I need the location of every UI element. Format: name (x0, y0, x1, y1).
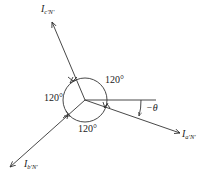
phasor-c-label: Ic'N' (41, 4, 54, 16)
angle-label-top-right: 120° (105, 75, 124, 85)
angle-label-left: 120° (44, 93, 63, 103)
phasor-b-label: Ib'N' (24, 159, 38, 171)
phasor-b-arrow (10, 100, 85, 167)
phasor-c-arrow (52, 22, 85, 100)
theta-label: −θ (146, 103, 158, 113)
theta-arc (139, 100, 141, 116)
angle-label-bottom: 120° (78, 124, 97, 134)
arc-arrow-bottom-left-2 (63, 114, 68, 119)
phasor-a-label: Ia'N' (182, 129, 196, 141)
phasor-diagram (0, 0, 212, 179)
